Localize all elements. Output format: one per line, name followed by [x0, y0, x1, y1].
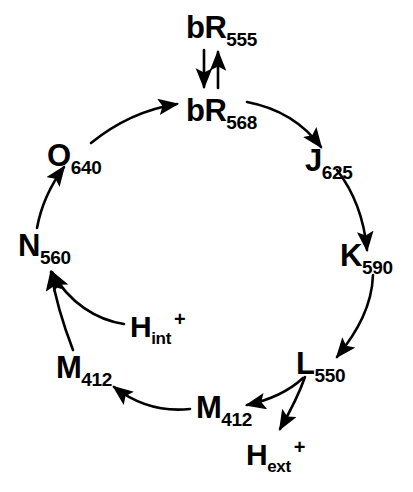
node-Hint-compartment: int — [151, 329, 171, 348]
node-L550-label: L — [296, 346, 314, 381]
node-bR568: bR568 — [186, 95, 257, 126]
node-proton-external: Hext+ — [246, 440, 303, 470]
arrow-O640-to-bR568 — [91, 104, 177, 143]
node-N560-wavelength: 560 — [40, 247, 71, 268]
node-M412-bottom-label: M — [196, 390, 221, 425]
node-M412-left: M412 — [56, 352, 112, 383]
node-O640-label: O — [47, 138, 71, 173]
node-O640: O640 — [47, 140, 101, 171]
node-L550-wavelength: 550 — [314, 365, 345, 386]
node-J625-wavelength: 625 — [322, 162, 353, 183]
node-proton-internal: Hint+ — [130, 312, 183, 342]
node-M412-left-label: M — [56, 350, 81, 385]
node-M412-left-wavelength: 412 — [81, 369, 112, 390]
node-M412-bottom-wavelength: 412 — [221, 409, 252, 430]
node-bR555-wavelength: 555 — [226, 29, 257, 50]
node-Hext-label: H — [246, 438, 267, 471]
node-bR568-wavelength: 568 — [226, 112, 257, 133]
node-J625-label: J — [305, 143, 322, 178]
arrow-K590-to-L550 — [337, 275, 373, 357]
node-bR555-label: bR — [186, 10, 226, 45]
node-N560: N560 — [18, 230, 71, 261]
node-bR568-label: bR — [186, 93, 226, 128]
arrow-M412-to-M412 — [114, 387, 190, 410]
arrow-N560-to-O640 — [37, 167, 64, 228]
arrow-bR568-to-J625 — [247, 102, 321, 147]
node-Hext-compartment: ext — [267, 457, 291, 476]
node-K590-label: K — [340, 238, 362, 273]
node-K590: K590 — [340, 240, 393, 271]
node-M412-bottom: M412 — [196, 392, 252, 423]
node-J625: J625 — [305, 145, 353, 176]
node-N560-label: N — [18, 228, 40, 263]
node-Hint-charge: + — [174, 308, 186, 330]
arrow-M412-to-N560 — [51, 272, 73, 350]
node-bR555: bR555 — [186, 12, 257, 43]
node-L550: L550 — [296, 348, 345, 379]
photocycle-figure: bR555 bR568 J625 K590 L550 M412 Hext+ M4… — [0, 0, 413, 492]
arrow-Hint-to-N560 — [52, 272, 124, 324]
arrow-L550-to-Hext — [280, 377, 305, 429]
node-Hint-label: H — [130, 310, 151, 343]
node-Hext-charge: + — [294, 436, 306, 458]
node-O640-wavelength: 640 — [71, 157, 102, 178]
node-K590-wavelength: 590 — [362, 257, 393, 278]
